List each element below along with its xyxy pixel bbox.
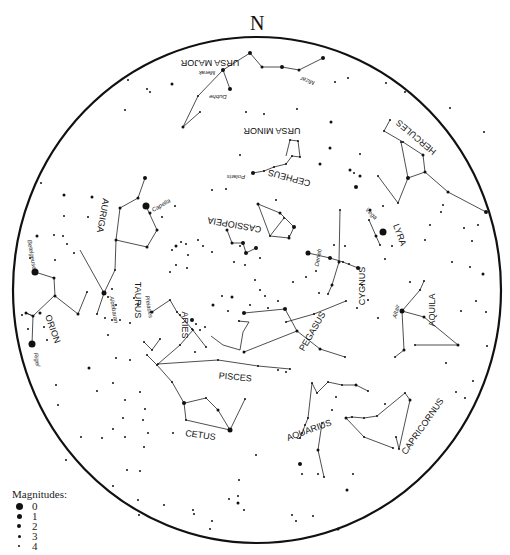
- star: [384, 403, 386, 405]
- star: [138, 514, 140, 516]
- star: [186, 267, 188, 269]
- star: [315, 270, 317, 272]
- star: [146, 88, 148, 90]
- star: [380, 229, 387, 236]
- constellation-line: [346, 418, 393, 448]
- north-direction-label: N: [250, 12, 264, 35]
- star: [254, 279, 256, 281]
- star: [403, 349, 406, 352]
- star: [482, 273, 485, 276]
- star: [406, 176, 410, 180]
- star: [330, 121, 333, 124]
- star: [115, 239, 118, 242]
- star: [429, 224, 431, 226]
- star: [248, 51, 252, 55]
- star: [424, 171, 427, 174]
- star: [255, 454, 257, 456]
- constellation-line: [144, 339, 160, 350]
- star: [383, 130, 385, 132]
- star: [249, 304, 251, 306]
- star: [43, 326, 45, 328]
- star: [124, 109, 126, 111]
- star: [321, 56, 325, 60]
- star: [347, 77, 349, 79]
- star: [299, 156, 301, 158]
- star: [392, 447, 394, 449]
- star: [295, 520, 297, 522]
- star: [137, 499, 139, 501]
- star: [21, 314, 23, 316]
- star: [391, 245, 393, 247]
- constellation-label: HERCULES: [394, 118, 438, 157]
- star: [483, 131, 485, 133]
- star: [175, 264, 177, 266]
- star: [329, 147, 332, 150]
- star: [244, 398, 246, 400]
- star: [104, 317, 106, 319]
- star: [469, 266, 471, 268]
- star: [442, 204, 444, 206]
- star: [169, 299, 171, 301]
- star: [288, 235, 290, 237]
- star: [280, 65, 284, 69]
- star: [267, 307, 269, 309]
- star-magnitude-icon: [12, 545, 26, 547]
- constellation-line: [398, 178, 408, 203]
- constellation-label: URSA MINOR: [243, 126, 301, 136]
- star: [228, 498, 230, 500]
- star: [359, 153, 361, 155]
- star: [212, 304, 215, 307]
- star: [243, 509, 245, 511]
- constellation-label: CETUS: [185, 428, 217, 442]
- star: [182, 126, 185, 129]
- star: [409, 281, 411, 283]
- star: [57, 404, 59, 406]
- star: [129, 359, 131, 361]
- star: [199, 329, 201, 331]
- star-name-label: Aldebaran: [108, 295, 119, 325]
- star: [277, 300, 279, 302]
- star: [211, 189, 213, 191]
- star: [149, 212, 152, 215]
- star: [463, 227, 465, 229]
- star: [296, 330, 299, 333]
- star: [171, 83, 174, 86]
- star-name-label: Polaris: [227, 174, 245, 180]
- star: [199, 111, 201, 113]
- star: [475, 300, 477, 302]
- star: [112, 485, 114, 487]
- constellation-line: [328, 210, 340, 294]
- constellation-line: [402, 281, 424, 311]
- star: [237, 495, 239, 497]
- star: [204, 326, 206, 328]
- constellation-label: ARIES: [180, 311, 190, 338]
- star: [254, 246, 258, 250]
- star: [289, 368, 291, 370]
- star: [291, 155, 293, 157]
- star: [161, 216, 163, 218]
- star: [285, 371, 287, 373]
- constellation-line: [317, 382, 368, 393]
- star: [352, 473, 354, 475]
- star: [151, 349, 153, 351]
- star: [107, 334, 109, 336]
- star: [472, 380, 474, 382]
- star: [111, 288, 113, 290]
- star: [63, 215, 65, 217]
- constellation-line: [211, 321, 249, 350]
- stars: [21, 51, 488, 531]
- star: [217, 409, 220, 412]
- star: [389, 119, 391, 121]
- constellation-label: AQUARIUS: [285, 417, 333, 442]
- star: [297, 140, 299, 142]
- star-magnitude-icon: [12, 514, 26, 519]
- star: [80, 436, 82, 438]
- star-magnitude-icon: [12, 503, 26, 510]
- star: [285, 163, 287, 165]
- star: [298, 69, 301, 72]
- star: [127, 79, 129, 81]
- constellation-label: PEGASUS: [297, 310, 327, 353]
- star: [368, 219, 370, 221]
- star: [53, 234, 55, 236]
- star: [356, 307, 358, 309]
